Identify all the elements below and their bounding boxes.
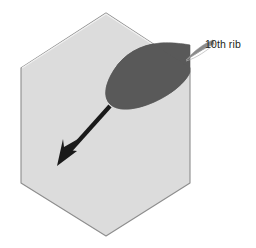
diagram-svg: 10th rib [0,0,256,248]
rib-label: 10th rib [205,38,241,50]
figure-root: 10th rib [0,0,256,248]
